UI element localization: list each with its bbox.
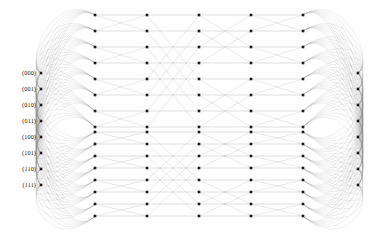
graph-edge (303, 121, 363, 144)
graph-node[interactable] (94, 126, 97, 129)
graph-node[interactable] (302, 94, 305, 97)
graph-node[interactable] (198, 126, 201, 129)
graph-node[interactable] (146, 62, 149, 65)
graph-node[interactable] (146, 203, 149, 206)
graph-node[interactable] (94, 78, 97, 81)
graph-node[interactable] (198, 203, 201, 206)
graph-node[interactable] (40, 120, 43, 123)
graph-node[interactable] (302, 14, 305, 17)
graph-node[interactable] (94, 215, 97, 218)
graph-node[interactable] (94, 143, 97, 146)
graph-node[interactable] (250, 167, 253, 170)
graph-node[interactable] (94, 131, 97, 134)
graph-node[interactable] (146, 131, 149, 134)
graph-node[interactable] (146, 155, 149, 158)
graph-node[interactable] (146, 94, 149, 97)
graph-node[interactable] (302, 62, 305, 65)
graph-node[interactable] (198, 46, 201, 49)
graph-node[interactable] (198, 191, 201, 194)
graph-node[interactable] (250, 131, 253, 134)
graph-node[interactable] (94, 110, 97, 113)
graph-node[interactable] (40, 88, 43, 91)
graph-node[interactable] (198, 78, 201, 81)
graph-node[interactable] (250, 126, 253, 129)
butterfly-network-figure: (000)(001)(010)(011)(100)(101)(110)(111) (0, 0, 373, 235)
graph-node[interactable] (250, 155, 253, 158)
graph-node[interactable] (40, 136, 43, 139)
graph-node[interactable] (357, 152, 360, 155)
graph-node[interactable] (250, 46, 253, 49)
graph-node[interactable] (250, 203, 253, 206)
graph-node[interactable] (94, 203, 97, 206)
graph-node[interactable] (302, 155, 305, 158)
graph-node[interactable] (302, 110, 305, 113)
graph-node[interactable] (302, 215, 305, 218)
graph-node[interactable] (198, 167, 201, 170)
graph-node[interactable] (250, 62, 253, 65)
graph-node[interactable] (94, 14, 97, 17)
graph-node[interactable] (302, 126, 305, 129)
graph-node[interactable] (94, 46, 97, 49)
graph-node[interactable] (302, 203, 305, 206)
graph-node[interactable] (357, 88, 360, 91)
graph-node[interactable] (302, 143, 305, 146)
graph-node[interactable] (357, 168, 360, 171)
graph-node[interactable] (357, 72, 360, 75)
graph-node[interactable] (250, 94, 253, 97)
graph-node[interactable] (146, 30, 149, 33)
graph-node[interactable] (198, 14, 201, 17)
graph-node[interactable] (198, 110, 201, 113)
graph-node[interactable] (198, 30, 201, 33)
graph-node[interactable] (250, 215, 253, 218)
graph-node[interactable] (302, 46, 305, 49)
graph-node[interactable] (250, 78, 253, 81)
graph-node[interactable] (302, 191, 305, 194)
graph-node[interactable] (94, 179, 97, 182)
graph-node[interactable] (94, 94, 97, 97)
graph-edge (303, 41, 363, 121)
graph-node[interactable] (146, 179, 149, 182)
graph-node[interactable] (250, 191, 253, 194)
graph-nodes-layer (40, 14, 360, 218)
graph-node[interactable] (357, 184, 360, 187)
graph-node[interactable] (302, 167, 305, 170)
graph-node[interactable] (146, 14, 149, 17)
graph-node[interactable] (302, 179, 305, 182)
graph-node[interactable] (146, 191, 149, 194)
graph-node[interactable] (198, 62, 201, 65)
graph-node[interactable] (198, 179, 201, 182)
graph-node[interactable] (302, 78, 305, 81)
graph-node[interactable] (146, 126, 149, 129)
graph-node[interactable] (302, 131, 305, 134)
graph-node[interactable] (146, 143, 149, 146)
graph-node[interactable] (302, 30, 305, 33)
graph-node[interactable] (40, 184, 43, 187)
graph-node[interactable] (94, 167, 97, 170)
graph-node[interactable] (94, 191, 97, 194)
graph-node[interactable] (146, 215, 149, 218)
graph-node[interactable] (198, 155, 201, 158)
graph-node[interactable] (357, 136, 360, 139)
graph-node[interactable] (250, 110, 253, 113)
graph-node[interactable] (250, 14, 253, 17)
graph-node[interactable] (40, 152, 43, 155)
graph-node[interactable] (198, 143, 201, 146)
graph-node[interactable] (94, 30, 97, 33)
graph-node[interactable] (94, 155, 97, 158)
graph-node[interactable] (198, 94, 201, 97)
graph-node[interactable] (357, 104, 360, 107)
graph-node[interactable] (250, 179, 253, 182)
graph-node[interactable] (40, 104, 43, 107)
graph-node[interactable] (198, 131, 201, 134)
graph-node[interactable] (146, 46, 149, 49)
graph-node[interactable] (198, 215, 201, 218)
graph-node[interactable] (250, 30, 253, 33)
graph-node[interactable] (146, 110, 149, 113)
graph-node[interactable] (146, 167, 149, 170)
graph-node[interactable] (40, 72, 43, 75)
graph-node[interactable] (357, 120, 360, 123)
graph-node[interactable] (146, 78, 149, 81)
graph-node[interactable] (94, 62, 97, 65)
graph-node[interactable] (40, 168, 43, 171)
graph-node[interactable] (250, 143, 253, 146)
